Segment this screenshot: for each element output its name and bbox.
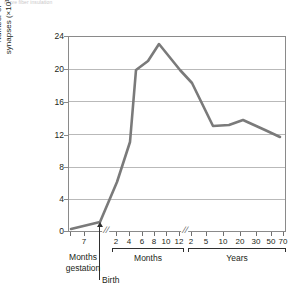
- x-axis: 7 // 2 4 6 8 10 12 // 2 5 10 20 30 50 70: [68, 231, 286, 232]
- x-tick-mark: [256, 232, 257, 236]
- x-tick-label-years-2: 2: [189, 237, 193, 246]
- synapse-curve: [69, 36, 287, 232]
- synapse-density-chart: nerve fiber insulation Number of synapse…: [0, 0, 300, 287]
- x-tick-label-months-8: 8: [152, 237, 156, 246]
- x-tick-mark: [223, 232, 224, 236]
- group-brace-years: [188, 248, 286, 252]
- group-label-years-text: Years: [226, 253, 247, 263]
- x-tick-label-months-10: 10: [162, 237, 171, 246]
- y-tick-label: 4: [46, 195, 64, 203]
- x-tick-label-years-5: 5: [204, 237, 208, 246]
- group-label-gestation-line2: gestation: [66, 263, 101, 273]
- x-tick-label-months-2: 2: [114, 237, 118, 246]
- x-tick-mark: [166, 232, 167, 236]
- x-tick-label-years-30: 30: [252, 237, 261, 246]
- x-tick-label-months-6: 6: [140, 237, 144, 246]
- y-tick-label: 12: [46, 131, 64, 139]
- x-tick-mark: [154, 232, 155, 236]
- plot-area: [68, 36, 286, 232]
- y-tick-label: 20: [46, 65, 64, 73]
- birth-arrow-icon: [97, 222, 103, 227]
- x-tick-label-months-4: 4: [127, 237, 131, 246]
- y-axis-title-line2: synapses (×10¹¹): [4, 0, 14, 84]
- x-tick-label-months-12: 12: [175, 237, 184, 246]
- y-tick-label: 0: [46, 227, 64, 235]
- x-tick-mark: [191, 232, 192, 236]
- x-tick-mark: [84, 232, 85, 236]
- y-tick-label: 16: [46, 98, 64, 106]
- x-tick-mark: [116, 232, 117, 236]
- x-tick-mark: [240, 232, 241, 236]
- group-brace-months: [112, 248, 184, 252]
- x-tick-label-years-50: 50: [267, 237, 276, 246]
- group-label-gestation-line1: Months: [69, 252, 97, 262]
- y-axis-title-line1: Number of: [0, 5, 3, 42]
- group-label-months-text: Months: [134, 253, 162, 263]
- axis-break-icon: //: [180, 226, 190, 235]
- x-tick-mark: [283, 232, 284, 236]
- x-tick-mark: [142, 232, 143, 236]
- x-tick-mark: [206, 232, 207, 236]
- x-tick-label-years-20: 20: [236, 237, 245, 246]
- group-label-months: Months: [112, 253, 184, 263]
- x-tick-mark: [129, 232, 130, 236]
- x-tick-label-gestation-7: 7: [82, 237, 86, 246]
- cropped-top-caption: nerve fiber insulation: [4, 0, 124, 8]
- x-tick-label-years-10: 10: [219, 237, 228, 246]
- axis-break-icon: //: [101, 226, 111, 235]
- y-tick-label: 24: [46, 32, 64, 40]
- y-axis-title: Number of synapses (×10¹¹): [0, 0, 13, 84]
- group-label-years: Years: [188, 253, 286, 263]
- y-tick-label: 8: [46, 163, 64, 171]
- x-tick-mark: [271, 232, 272, 236]
- x-tick-label-years-70: 70: [279, 237, 288, 246]
- group-label-gestation: Months gestation: [52, 252, 114, 273]
- birth-marker-label: Birth: [102, 275, 119, 285]
- x-tick-mark: [70, 232, 71, 236]
